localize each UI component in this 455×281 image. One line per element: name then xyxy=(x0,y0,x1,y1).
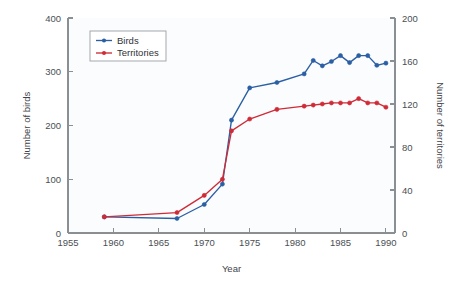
legend-marker-birds xyxy=(102,38,106,42)
legend-layer: BirdsTerritories xyxy=(90,31,166,61)
data-point-territories xyxy=(311,103,315,107)
data-point-birds xyxy=(320,64,324,68)
y-tick-label-right: 200 xyxy=(402,13,418,24)
data-point-birds xyxy=(202,202,206,206)
y-tick-label-right: 40 xyxy=(402,185,413,196)
x-tick-label: 1960 xyxy=(103,237,124,248)
data-point-territories xyxy=(229,129,233,133)
x-tick-label: 1980 xyxy=(285,237,306,248)
data-point-territories xyxy=(248,117,252,121)
data-point-territories xyxy=(275,107,279,111)
line-chart: 0100200300400040801201602001955196019651… xyxy=(0,0,455,281)
y-tick-label-right: 120 xyxy=(402,99,418,110)
y-axis-left-title: Number of birds xyxy=(21,91,32,159)
data-point-territories xyxy=(375,101,379,105)
y-tick-label-left: 400 xyxy=(45,13,61,24)
data-point-birds xyxy=(302,72,306,76)
x-tick-label: 1970 xyxy=(194,237,215,248)
data-point-birds xyxy=(275,80,279,84)
y-tick-label-left: 300 xyxy=(45,66,61,77)
legend-label-territories: Territories xyxy=(117,47,159,58)
y-tick-label-right: 80 xyxy=(402,142,413,153)
y-axis-right-title: Number of territories xyxy=(435,82,446,169)
data-point-territories xyxy=(366,101,370,105)
x-tick-label: 1990 xyxy=(375,237,396,248)
x-tick-label: 1965 xyxy=(148,237,169,248)
data-point-birds xyxy=(338,54,342,58)
data-point-birds xyxy=(366,54,370,58)
data-point-birds xyxy=(375,63,379,67)
x-tick-label: 1955 xyxy=(57,237,78,248)
data-point-birds xyxy=(348,61,352,65)
data-point-birds xyxy=(220,182,224,186)
data-point-territories xyxy=(357,97,361,101)
x-tick-label: 1985 xyxy=(330,237,351,248)
data-point-territories xyxy=(329,101,333,105)
data-point-birds xyxy=(248,86,252,90)
data-point-territories xyxy=(338,101,342,105)
legend-marker-territories xyxy=(102,51,106,55)
data-point-territories xyxy=(175,211,179,215)
chart-figure: 0100200300400040801201602001955196019651… xyxy=(0,0,455,281)
data-point-territories xyxy=(220,177,224,181)
data-point-territories xyxy=(348,101,352,105)
data-point-territories xyxy=(202,193,206,197)
y-tick-label-right: 160 xyxy=(402,56,418,67)
y-tick-label-right: 0 xyxy=(402,228,407,239)
data-point-birds xyxy=(329,59,333,63)
x-axis-title: Year xyxy=(222,263,241,274)
data-point-birds xyxy=(175,216,179,220)
data-point-birds xyxy=(357,54,361,58)
y-tick-label-left: 200 xyxy=(45,120,61,131)
data-point-territories xyxy=(102,215,106,219)
data-point-birds xyxy=(229,118,233,122)
data-point-territories xyxy=(302,104,306,108)
y-tick-label-left: 100 xyxy=(45,174,61,185)
data-point-birds xyxy=(311,58,315,62)
x-tick-label: 1975 xyxy=(239,237,260,248)
legend-label-birds: Birds xyxy=(117,35,139,46)
data-point-territories xyxy=(320,102,324,106)
data-point-territories xyxy=(384,105,388,109)
data-point-birds xyxy=(384,61,388,65)
